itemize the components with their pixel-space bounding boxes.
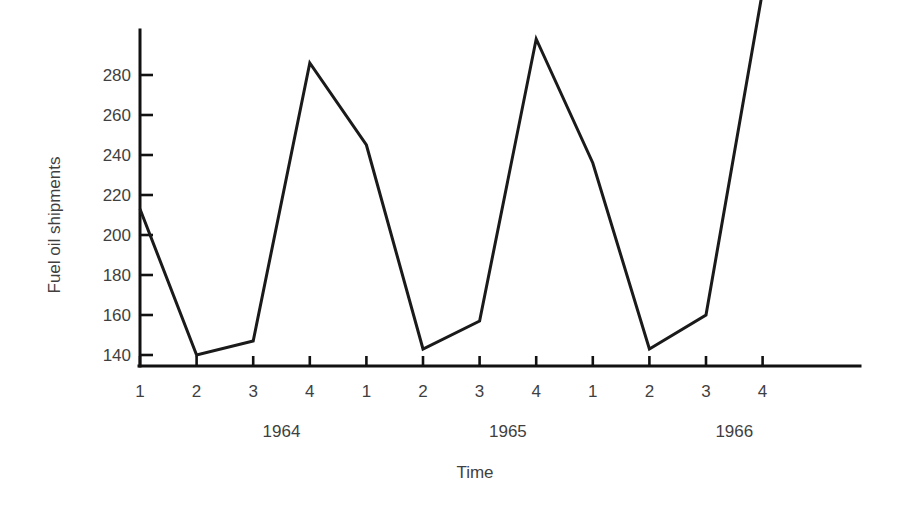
x-tick-label: 2 xyxy=(192,382,201,401)
y-tick-label: 180 xyxy=(103,266,131,285)
x-tick-label: 3 xyxy=(475,382,484,401)
x-axis-group-labels: 196419651966 xyxy=(263,422,754,441)
x-tick-label: 1 xyxy=(135,382,144,401)
data-series-line xyxy=(140,0,763,355)
y-tick-label: 200 xyxy=(103,226,131,245)
y-tick-label: 220 xyxy=(103,186,131,205)
x-axis-group-label: 1965 xyxy=(489,422,527,441)
x-axis-group-label: 1964 xyxy=(263,422,301,441)
x-tick-label: 2 xyxy=(645,382,654,401)
x-tick-label: 4 xyxy=(531,382,540,401)
x-axis-group-label: 1966 xyxy=(715,422,753,441)
x-tick-label: 3 xyxy=(248,382,257,401)
x-tick-label: 4 xyxy=(758,382,767,401)
x-tick-label: 4 xyxy=(305,382,314,401)
x-axis-tick-labels: 123412341234 xyxy=(135,382,767,401)
x-axis-title: Time xyxy=(456,463,493,482)
x-tick-label: 2 xyxy=(418,382,427,401)
y-axis-title: Fuel oil shipments xyxy=(45,156,64,293)
line-chart-canvas: 140160180200220240260280 123412341234 19… xyxy=(0,0,900,508)
y-tick-label: 140 xyxy=(103,346,131,365)
x-tick-label: 1 xyxy=(588,382,597,401)
y-axis-tick-labels: 140160180200220240260280 xyxy=(103,66,131,365)
y-tick-label: 260 xyxy=(103,106,131,125)
y-tick-label: 240 xyxy=(103,146,131,165)
y-tick-label: 280 xyxy=(103,66,131,85)
chart-figure: 140160180200220240260280 123412341234 19… xyxy=(0,0,900,508)
x-tick-label: 1 xyxy=(362,382,371,401)
x-tick-label: 3 xyxy=(701,382,710,401)
y-tick-label: 160 xyxy=(103,306,131,325)
